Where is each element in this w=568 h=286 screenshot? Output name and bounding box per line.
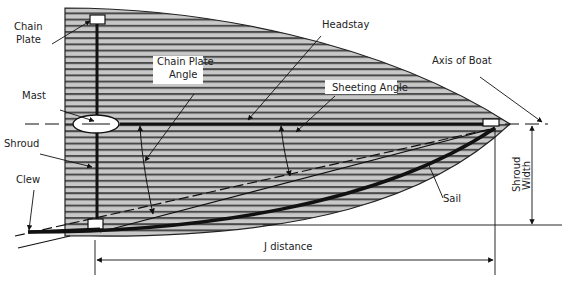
label-sail: Sail bbox=[443, 193, 461, 204]
chain-plate-bottom bbox=[88, 219, 103, 229]
label-clew: Clew bbox=[16, 174, 40, 185]
label-mast: Mast bbox=[22, 90, 46, 101]
label-chain-plate-1: Chain bbox=[14, 21, 43, 32]
label-chain-plate-2: Plate bbox=[16, 34, 41, 45]
sail-plan-diagram: Chain Plate Mast Shroud Clew Chain Plate… bbox=[0, 0, 568, 286]
label-chain-plate-angle-1: Chain Plate bbox=[157, 56, 214, 67]
label-shroud: Shroud bbox=[4, 138, 39, 149]
label-j-distance: J distance bbox=[263, 241, 313, 252]
label-sheeting-angle: Sheeting Angle bbox=[332, 82, 408, 93]
chain-plate-top bbox=[90, 15, 105, 24]
bow-fitting bbox=[483, 119, 499, 126]
label-chain-plate-angle-2: Angle bbox=[169, 69, 197, 80]
label-shroud-width-2: Width bbox=[521, 161, 532, 190]
label-headstay: Headstay bbox=[322, 19, 369, 30]
label-axis-of-boat: Axis of Boat bbox=[432, 55, 492, 66]
